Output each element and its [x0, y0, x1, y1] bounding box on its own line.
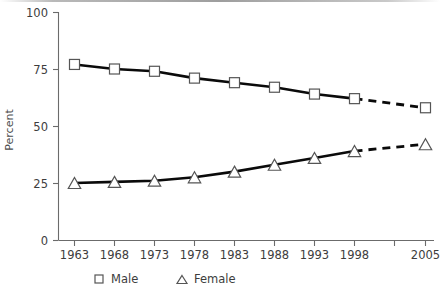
y-axis-title: Percent — [3, 109, 16, 151]
y-tick-label: 50 — [33, 120, 48, 134]
square-marker-icon — [95, 275, 103, 283]
x-axis-ticks — [75, 241, 426, 247]
x-tick-label: 1988 — [260, 248, 289, 262]
series-female — [68, 139, 431, 189]
x-tick-label: 1978 — [180, 248, 209, 262]
x-axis-tick-labels: 1963 1968 1973 1978 1983 1988 1993 1998 … — [60, 248, 440, 262]
data-point-marker — [190, 73, 200, 83]
x-tick-label: 1993 — [300, 248, 329, 262]
y-axis-tick-labels: 100 75 50 25 0 — [26, 6, 48, 248]
chart-container: Percent 100 75 50 25 0 — [0, 0, 440, 291]
x-tick-label: 1963 — [60, 248, 89, 262]
y-tick-label: 0 — [41, 234, 48, 248]
data-point-marker — [230, 78, 240, 88]
data-point-marker — [70, 59, 80, 69]
y-tick-label: 25 — [33, 177, 48, 191]
series-line-projected — [355, 99, 426, 108]
x-tick-label: 1973 — [140, 248, 169, 262]
series-male — [70, 59, 431, 112]
y-tick-label: 100 — [26, 6, 48, 20]
y-axis-ticks — [53, 13, 59, 241]
y-tick-label: 75 — [33, 63, 48, 77]
data-point-marker — [310, 89, 320, 99]
line-chart-plot: Percent 100 75 50 25 0 — [0, 0, 440, 291]
data-point-marker — [270, 82, 280, 92]
data-point-marker — [150, 66, 160, 76]
series-layer — [68, 59, 431, 188]
data-point-marker — [110, 64, 120, 74]
data-point-marker — [419, 139, 431, 150]
data-point-marker — [350, 94, 360, 104]
data-point-marker — [421, 103, 431, 113]
x-tick-label: 2005 — [411, 248, 440, 262]
x-tick-label: 1998 — [340, 248, 369, 262]
legend-label-male: Male — [111, 272, 138, 286]
series-line-projected — [355, 144, 426, 151]
x-tick-label: 1968 — [100, 248, 129, 262]
x-tick-label: 1983 — [220, 248, 249, 262]
chart-legend: Male Female — [95, 272, 236, 286]
triangle-marker-icon — [177, 276, 187, 284]
legend-label-female: Female — [194, 272, 236, 286]
